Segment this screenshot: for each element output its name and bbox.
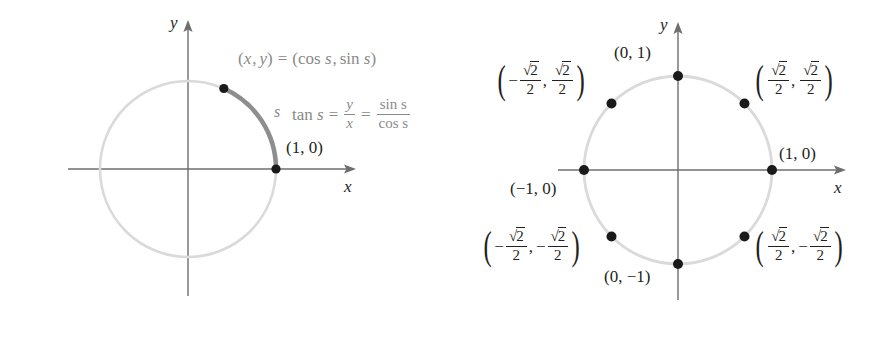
fraction-q4-y: √2 2 [810,229,831,264]
paren-open-q4: ( [756,228,764,265]
sin-text: sin [340,50,360,67]
fraction-q1-y: √2 2 [800,63,821,98]
comma-q2: , [542,72,550,89]
dot-1-0 [767,165,777,175]
right-label-q2: ( − √2 2 , √2 2 ) [495,62,587,99]
figure-graphics [0,0,881,340]
right-label-q4: ( √2 2 , − √2 2 ) [753,228,845,265]
s-symbol-1: s [325,50,332,67]
paren-close-q1: ) [825,62,833,99]
right-label-0-neg1: (0, −1) [604,268,650,285]
radical-q2-y: √2 [552,63,573,80]
dot-q2 [607,99,617,109]
radical-q3-x: √2 [506,229,527,246]
denominator-q1-x: 2 [773,81,785,98]
radical-q1-x: √2 [768,63,789,80]
right-y-axis-label: y [660,16,668,33]
radical-q1-y: √2 [800,63,821,80]
paren-close-q4: ) [834,228,842,265]
dot-0-1 [673,71,683,81]
fraction-numerator: y [344,97,355,114]
right-label-1-0: (1, 0) [779,145,816,162]
paren-open-q3: ( [484,228,492,265]
paren-open-q2: ( [498,62,506,99]
radical-q4-y: √2 [810,229,831,246]
tangent-identity-label: tan s = y x = sin s cos s [292,97,411,132]
fraction-q1-x: √2 2 [768,63,789,98]
y-symbol: y [259,50,267,67]
left-point-1-0 [271,164,280,173]
fraction-q2-y: √2 2 [552,63,573,98]
dot-q3 [607,232,617,242]
denominator-q2-x: 2 [525,81,537,98]
left-point-cos-sin [219,84,228,93]
right-label-q1: ( √2 2 , √2 2 ) [753,62,835,99]
minus-sign-q3-x: − [494,238,505,255]
minus-sign-q3-y: − [536,238,547,255]
fraction-y-over-x: y x [344,97,355,132]
fraction-q4-x: √2 2 [768,229,789,264]
equals-sign-3: = [356,106,376,123]
denominator-q2-y: 2 [557,81,569,98]
arc-parameter-label: s [274,104,280,120]
dot-0-neg1 [673,259,683,269]
unit-circle-figure: y x (x,y) = (cos s,sin s) s tan s = y x … [0,0,881,340]
comma-q3: , [528,238,536,255]
denominator-q4-x: 2 [773,247,785,264]
denominator-q4-y: 2 [815,247,827,264]
s-symbol-2: s [364,50,371,67]
fraction-denominator: x [344,115,355,132]
right-x-axis-label: x [834,179,842,196]
comma-2: , [332,50,340,67]
s-symbol-3: s [317,106,324,123]
radical-q2-x: √2 [520,63,541,80]
comma-q4: , [790,238,798,255]
fraction-denominator-2: cos s [377,115,411,132]
parametric-equation-label: (x,y) = (cos s,sin s) [238,50,376,67]
left-x-axis-label: x [344,178,352,195]
cos-text: cos [298,50,321,67]
paren-close-2: ) [370,50,376,67]
fraction-q3-x: √2 2 [506,229,527,264]
paren-close-q3: ) [572,228,580,265]
right-label-0-1: (0, 1) [614,44,651,61]
paren-close-q2: ) [576,62,584,99]
arc-highlight-s [224,89,276,170]
right-label-neg1-0: (−1, 0) [510,180,556,197]
fraction-sin-over-cos: sin s cos s [377,97,411,132]
fraction-numerator-2: sin s [378,97,409,114]
denominator-q3-x: 2 [511,247,523,264]
paren-open-q1: ( [756,62,764,99]
minus-sign-q2-x: − [508,72,519,89]
tan-text: tan [292,106,313,123]
fraction-q3-y: √2 2 [548,229,569,264]
dot-neg1-0 [579,165,589,175]
left-point-label-1-0: (1, 0) [286,139,323,156]
x-symbol: x [244,50,252,67]
equals-sign: = [273,50,293,67]
comma-q1: , [790,72,798,89]
minus-sign-q4-y: − [798,238,809,255]
denominator-q3-y: 2 [552,247,564,264]
denominator-q1-y: 2 [805,81,817,98]
dot-q1 [740,99,750,109]
radical-q4-x: √2 [768,229,789,246]
right-label-q3: ( − √2 2 , − √2 2 ) [481,228,583,265]
fraction-q2-x: √2 2 [520,63,541,98]
dot-q4 [740,232,750,242]
equals-sign-2: = [324,106,344,123]
radical-q3-y: √2 [548,229,569,246]
left-y-axis-label: y [170,14,178,31]
